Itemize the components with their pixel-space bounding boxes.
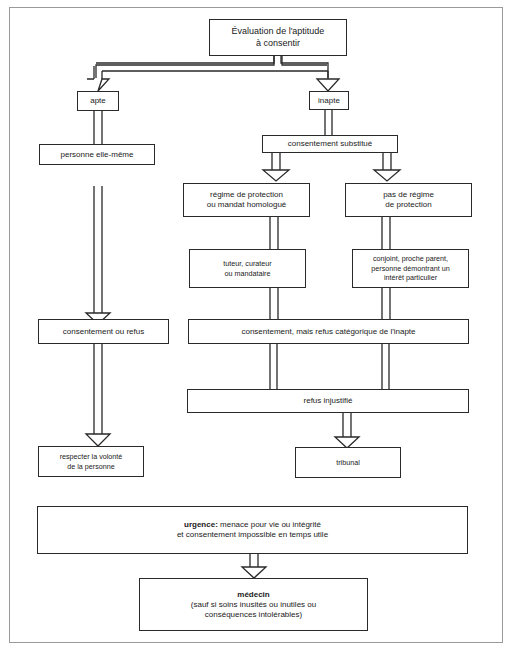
node-conjoint-line-2: personne démontrant un bbox=[371, 264, 449, 273]
node-regime-protection-line-1: régime de protection bbox=[210, 190, 283, 200]
node-refus-categorique-label: consentement, mais refus catégorique de … bbox=[241, 327, 415, 337]
node-conjoint-line-3: intérêt particulier bbox=[384, 273, 437, 282]
node-medecin-line-2: conséquences intolérables) bbox=[205, 610, 302, 620]
node-inapte-label: inapte bbox=[318, 96, 340, 106]
edge-evaluation-inapte bbox=[96, 55, 328, 78]
edge-refus-categorique-injustifie bbox=[270, 343, 389, 389]
node-respecter-line-2: de la personne bbox=[67, 462, 115, 471]
arrowhead-inapte bbox=[317, 79, 339, 91]
edge-inapte-substitue bbox=[325, 108, 332, 137]
node-consentement-ou-refus: consentement ou refus bbox=[38, 319, 169, 344]
arrowhead-pas-regime bbox=[374, 170, 400, 181]
arrowhead-respecter bbox=[86, 434, 110, 446]
edge-substitue-pas-regime bbox=[383, 151, 391, 170]
node-tuteur: tuteur, curateur ou mandataire bbox=[189, 249, 306, 288]
edge-conjoint-refus-categorique bbox=[382, 287, 390, 320]
node-refus-injustifie: refus injustifié bbox=[187, 389, 469, 413]
node-consentement-substitue: consentement substitué bbox=[262, 135, 398, 153]
node-evaluation: Évaluation de l'aptitude à consentir bbox=[209, 19, 347, 56]
node-apte-label: apte bbox=[90, 96, 106, 106]
node-apte: apte bbox=[77, 91, 119, 111]
node-pas-regime: pas de régime de protection bbox=[345, 183, 472, 217]
node-tribunal: tribunal bbox=[295, 447, 401, 478]
node-urgence-rest: menace pour vie ou intégrité bbox=[218, 520, 321, 529]
edge-consentement-respecter bbox=[94, 344, 102, 434]
node-respecter: respecter la volonté de la personne bbox=[38, 446, 144, 477]
node-medecin-title: médecin bbox=[237, 590, 269, 600]
node-conjoint: conjoint, proche parent, personne démont… bbox=[352, 249, 469, 288]
node-inapte: inapte bbox=[309, 91, 349, 110]
node-conjoint-line-1: conjoint, proche parent, bbox=[373, 254, 448, 263]
edge-urgence-medecin bbox=[250, 553, 258, 567]
node-consentement-substitue-label: consentement substitué bbox=[288, 139, 373, 149]
node-evaluation-line-1: Évaluation de l'aptitude bbox=[232, 26, 325, 37]
node-urgence-keyword: urgence: bbox=[184, 520, 218, 529]
node-personne-elle-meme: personne elle-même bbox=[39, 144, 155, 165]
node-refus-injustifie-label: refus injustifié bbox=[304, 396, 353, 406]
node-tuteur-line-1: tuteur, curateur bbox=[223, 259, 271, 268]
node-medecin-line-1: (sauf si soins inusités ou inutiles ou bbox=[191, 600, 316, 610]
node-pas-regime-line-2: de protection bbox=[385, 200, 431, 210]
node-regime-protection: régime de protection ou mandat homologué bbox=[183, 183, 310, 217]
edge-personne-consentement bbox=[94, 186, 102, 313]
edge-regime-tuteur bbox=[270, 216, 278, 250]
arrowhead-regime bbox=[263, 170, 289, 181]
node-evaluation-line-2: à consentir bbox=[256, 38, 300, 49]
node-personne-elle-meme-label: personne elle-même bbox=[61, 150, 134, 160]
edge-injustifie-tribunal bbox=[343, 412, 351, 437]
node-tuteur-line-2: ou mandataire bbox=[225, 269, 271, 278]
edge-evaluation-apte bbox=[96, 55, 327, 78]
node-urgence-line-2: et consentement impossible en temps util… bbox=[177, 530, 328, 540]
arrowhead-medecin bbox=[242, 567, 266, 578]
node-consentement-ou-refus-label: consentement ou refus bbox=[63, 327, 144, 337]
node-pas-regime-line-1: pas de régime bbox=[383, 190, 434, 200]
edge-substitue-regime bbox=[272, 151, 280, 170]
node-refus-categorique: consentement, mais refus catégorique de … bbox=[188, 319, 469, 344]
node-medecin: médecin (sauf si soins inusités ou inuti… bbox=[139, 578, 368, 631]
edge-tuteur-refus-categorique bbox=[270, 287, 278, 320]
node-respecter-line-1: respecter la volonté bbox=[60, 452, 123, 461]
node-regime-protection-line-2: ou mandat homologué bbox=[207, 200, 287, 210]
node-urgence-line-1: urgence: menace pour vie ou intégrité bbox=[184, 520, 321, 530]
node-urgence: urgence: menace pour vie ou intégrité et… bbox=[37, 506, 468, 554]
arrowhead-apte bbox=[87, 79, 109, 91]
node-tribunal-label: tribunal bbox=[336, 458, 360, 467]
